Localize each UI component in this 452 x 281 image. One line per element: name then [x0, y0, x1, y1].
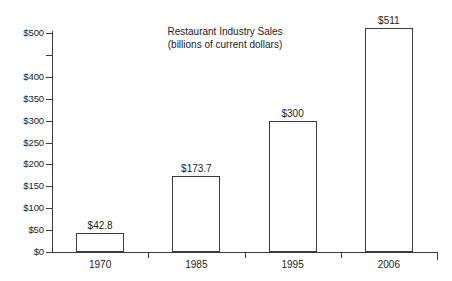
- y-axis-tick: [46, 230, 53, 231]
- y-axis-label-text: $50: [2, 224, 44, 235]
- x-axis-end-tick: [437, 252, 438, 260]
- y-axis-label-text: $400: [2, 71, 44, 82]
- chart-subtitle-line: (billions of current dollars): [120, 39, 330, 52]
- y-axis-label-text: $150: [2, 180, 44, 191]
- bar: [76, 233, 124, 252]
- x-axis-category-label: 1995: [253, 259, 333, 270]
- y-axis-tick: [46, 164, 53, 165]
- y-axis-label-text: $200: [2, 158, 44, 169]
- y-axis-tick: [46, 77, 53, 78]
- y-axis-label-text: $300: [2, 115, 44, 126]
- bar: [172, 176, 220, 252]
- y-axis-tick: [46, 143, 53, 144]
- bar-value-label: $300: [253, 108, 333, 119]
- bar-value-label: $511: [349, 15, 429, 26]
- x-axis-category-label: 1970: [60, 259, 140, 270]
- x-axis-separator-tick: [148, 252, 149, 258]
- y-axis-tick: [46, 121, 53, 122]
- y-axis-tick: [46, 252, 53, 253]
- y-axis-label-text: $250: [2, 137, 44, 148]
- y-axis-label-text: $350: [2, 93, 44, 104]
- bar: [269, 121, 317, 252]
- x-axis-separator-tick: [245, 252, 246, 258]
- y-axis-label: $200: [0, 158, 44, 169]
- y-axis-label: $50: [0, 224, 44, 235]
- y-axis-label: $100: [0, 202, 44, 213]
- x-axis-category-label: 1985: [156, 259, 236, 270]
- chart-title-line: Restaurant Industry Sales: [167, 26, 282, 37]
- y-axis-tick: [46, 33, 53, 34]
- y-axis-label-text: $0: [2, 246, 44, 257]
- y-axis-label: $250: [0, 137, 44, 148]
- bar: [365, 28, 413, 252]
- bar-value-label: $42.8: [60, 220, 140, 231]
- chart-title: Restaurant Industry Sales (billions of c…: [120, 26, 330, 51]
- y-axis-tick: [46, 208, 53, 209]
- bar-value-label: $173.7: [156, 163, 236, 174]
- y-axis-tick: [46, 186, 53, 187]
- x-axis-separator-tick: [341, 252, 342, 258]
- y-axis-label: $300: [0, 115, 44, 126]
- y-axis-label: $500: [0, 27, 44, 38]
- y-axis-label-text: $500: [2, 27, 44, 38]
- y-axis-label: $150: [0, 180, 44, 191]
- y-axis-label: $350: [0, 93, 44, 104]
- y-axis-label-text: $100: [2, 202, 44, 213]
- x-axis-category-label: 2006: [349, 259, 429, 270]
- y-axis-tick: [46, 99, 53, 100]
- y-axis-label: $0: [0, 246, 44, 257]
- bar-chart: Restaurant Industry Sales (billions of c…: [0, 0, 452, 281]
- y-axis-tick: [46, 55, 53, 56]
- y-axis-label: $400: [0, 71, 44, 82]
